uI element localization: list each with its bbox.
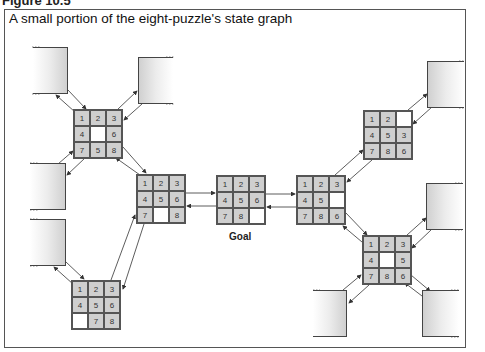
blank-tile bbox=[329, 192, 345, 208]
puzzle-state-mid-left: 1 2 3 4 5 6 7 8 bbox=[136, 174, 186, 224]
tile: 3 bbox=[104, 281, 120, 297]
tile: 2 bbox=[153, 175, 169, 191]
puzzle-state-upper-right: 1 2 4 5 3 7 8 6 bbox=[363, 110, 413, 160]
tile: 8 bbox=[379, 268, 395, 284]
tile: 2 bbox=[90, 110, 106, 126]
tile: 7 bbox=[363, 268, 379, 284]
tile: 2 bbox=[88, 281, 104, 297]
unexplored-state-box bbox=[427, 61, 464, 108]
tile: 1 bbox=[297, 176, 313, 192]
blank-tile bbox=[72, 313, 88, 329]
tile: 2 bbox=[380, 111, 396, 127]
tile: 1 bbox=[363, 236, 379, 252]
puzzle-state-goal: 1 2 3 4 5 6 7 8 bbox=[216, 175, 266, 225]
tile: 3 bbox=[395, 236, 411, 252]
tile: 6 bbox=[169, 191, 185, 207]
tile: 7 bbox=[297, 208, 313, 224]
tile: 6 bbox=[329, 208, 345, 224]
tile: 8 bbox=[104, 313, 120, 329]
tile: 8 bbox=[313, 208, 329, 224]
tile: 3 bbox=[169, 175, 185, 191]
blank-tile bbox=[90, 126, 106, 142]
unexplored-state-box bbox=[30, 163, 66, 210]
tile: 3 bbox=[106, 110, 122, 126]
unexplored-state-box bbox=[30, 219, 66, 266]
unexplored-state-box bbox=[138, 57, 173, 104]
tile: 4 bbox=[217, 192, 233, 208]
tile: 4 bbox=[297, 192, 313, 208]
tile: 6 bbox=[104, 297, 120, 313]
unexplored-state-box bbox=[422, 290, 459, 337]
tile: 8 bbox=[380, 143, 396, 159]
tile: 4 bbox=[363, 252, 379, 268]
tile: 5 bbox=[380, 127, 396, 143]
unexplored-state-box bbox=[426, 183, 463, 230]
tile: 7 bbox=[74, 142, 90, 158]
tile: 3 bbox=[329, 176, 345, 192]
tile: 8 bbox=[233, 208, 249, 224]
tile: 3 bbox=[249, 176, 265, 192]
puzzle-state-top-left: 1 2 3 4 6 7 5 8 bbox=[73, 109, 123, 159]
tile: 7 bbox=[137, 207, 153, 223]
tile: 2 bbox=[313, 176, 329, 192]
blank-tile bbox=[396, 111, 412, 127]
unexplored-state-box bbox=[313, 290, 347, 337]
tile: 6 bbox=[396, 143, 412, 159]
tile: 5 bbox=[395, 252, 411, 268]
tile: 1 bbox=[217, 176, 233, 192]
tile: 4 bbox=[72, 297, 88, 313]
blank-tile bbox=[379, 252, 395, 268]
tile: 5 bbox=[313, 192, 329, 208]
goal-label: Goal bbox=[229, 231, 251, 242]
tile: 4 bbox=[137, 191, 153, 207]
tile: 6 bbox=[395, 268, 411, 284]
tile: 7 bbox=[88, 313, 104, 329]
tile: 3 bbox=[396, 127, 412, 143]
tile: 4 bbox=[364, 127, 380, 143]
blank-tile bbox=[249, 208, 265, 224]
tile: 7 bbox=[364, 143, 380, 159]
puzzle-state-right: 1 2 3 4 5 7 8 6 bbox=[296, 175, 346, 225]
tile: 6 bbox=[106, 126, 122, 142]
tile: 1 bbox=[364, 111, 380, 127]
tile: 8 bbox=[169, 207, 185, 223]
tile: 5 bbox=[233, 192, 249, 208]
tile: 1 bbox=[72, 281, 88, 297]
tile: 2 bbox=[379, 236, 395, 252]
blank-tile bbox=[153, 207, 169, 223]
puzzle-state-bottom-left: 1 2 3 4 5 6 7 8 bbox=[71, 280, 121, 330]
unexplored-state-box bbox=[33, 47, 68, 94]
tile: 1 bbox=[74, 110, 90, 126]
tile: 4 bbox=[74, 126, 90, 142]
tile: 1 bbox=[137, 175, 153, 191]
tile: 7 bbox=[217, 208, 233, 224]
tile: 5 bbox=[153, 191, 169, 207]
tile: 8 bbox=[106, 142, 122, 158]
tile: 2 bbox=[233, 176, 249, 192]
tile: 6 bbox=[249, 192, 265, 208]
tile: 5 bbox=[90, 142, 106, 158]
puzzle-state-lower-right: 1 2 3 4 5 7 8 6 bbox=[362, 235, 412, 285]
tile: 5 bbox=[88, 297, 104, 313]
